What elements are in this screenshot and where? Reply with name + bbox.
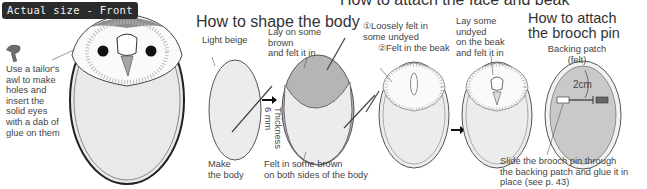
- label-thickness: Thickness 6 mm: [262, 107, 283, 149]
- section-title-face-beak: How to attach the face and beak: [340, 0, 569, 8]
- actual-size-badge: Actual size - Front: [2, 2, 138, 19]
- label-step2: ②Felt in the beak: [378, 43, 450, 54]
- face-step-2: [462, 56, 532, 168]
- brooch-back: [545, 61, 621, 169]
- owl-actual-size: [70, 14, 184, 184]
- label-backing-patch: Backing patch (felt): [535, 44, 619, 65]
- section-title-brooch: How to attach the brooch pin: [528, 11, 620, 41]
- label-lay-brown: Lay on some brown and felt it in: [268, 27, 321, 59]
- face-step-1: [366, 62, 449, 168]
- label-2cm: 2cm: [573, 80, 592, 91]
- awl-icon: [6, 45, 20, 63]
- label-step1: ①Loosely felt in some undyed: [363, 21, 428, 42]
- awl-note: Use a tailor's awl to make holes and ins…: [6, 64, 60, 138]
- label-lay-undyed: Lay some undyed on the beak and felt it …: [456, 16, 505, 58]
- arrow-right-icon: [262, 96, 277, 104]
- label-make-body: Make the body: [208, 159, 244, 180]
- label-slide-note: Slide the brooch pin through the backing…: [500, 156, 647, 188]
- label-light-beige: Light beige: [202, 35, 248, 46]
- label-felt-sides: Felt in some brown on both sides of the …: [264, 159, 368, 180]
